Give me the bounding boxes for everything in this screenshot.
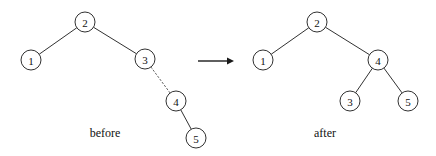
before-node-label-3: 3 xyxy=(142,54,148,66)
arrow-head xyxy=(227,57,234,64)
after-node-label-3: 3 xyxy=(347,96,353,108)
after-edge-4-5 xyxy=(384,68,402,93)
before-edge-2-3 xyxy=(94,27,137,54)
diagram-canvas: 21345 21435 before after xyxy=(0,0,436,156)
after-edge-4-3 xyxy=(356,68,373,92)
before-edge-2-1 xyxy=(39,28,77,55)
before-node-label-4: 4 xyxy=(173,96,179,108)
after-edge-2-1 xyxy=(271,28,309,55)
before-caption: before xyxy=(90,126,121,140)
after-tree-nodes: 21435 xyxy=(253,12,418,111)
after-node-label-1: 1 xyxy=(260,55,266,67)
tree-rotation-figure: 21345 21435 before after xyxy=(0,0,436,156)
before-node-label-1: 1 xyxy=(28,55,34,67)
after-caption: after xyxy=(314,126,336,140)
after-node-label-4: 4 xyxy=(375,55,381,67)
before-node-label-2: 2 xyxy=(82,17,88,29)
before-node-label-5: 5 xyxy=(193,133,199,145)
before-tree-edges xyxy=(39,27,191,129)
after-node-label-2: 2 xyxy=(314,17,320,29)
transformation-arrow xyxy=(198,57,234,64)
after-node-label-5: 5 xyxy=(405,96,411,108)
after-edge-2-4 xyxy=(325,27,369,54)
before-edge-4-5 xyxy=(181,110,191,129)
before-edge-3-4 xyxy=(151,67,170,93)
